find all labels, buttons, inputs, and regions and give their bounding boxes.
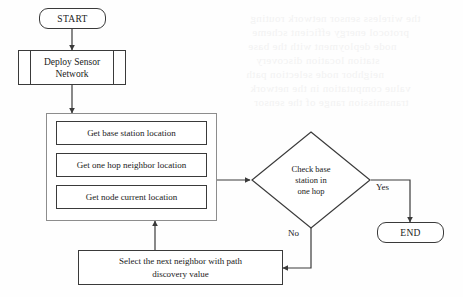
- node-decision-check-base-station[interactable]: Check base station in one hop: [251, 131, 371, 229]
- node-start-label: START: [57, 14, 87, 24]
- decision-label-block: Check base station in one hop: [251, 131, 371, 229]
- node-end-label: END: [400, 228, 420, 238]
- node-end[interactable]: END: [377, 222, 444, 243]
- ghost-text-line-6: value computation in the network: [250, 82, 411, 95]
- flowchart-canvas: the wireless sensor network routing prot…: [0, 0, 463, 297]
- node-get-one-hop-neighbor-location[interactable]: Get one hop neighbor location: [56, 153, 207, 177]
- ghost-text-line-2: protocol energy efficient scheme: [252, 26, 409, 39]
- node-select-label-line2: discovery value: [152, 268, 209, 281]
- node-start[interactable]: START: [39, 8, 106, 29]
- edge-label-no: No: [288, 228, 299, 238]
- node-select-label-line1: Select the next neighbor with path: [119, 255, 242, 268]
- edge-label-yes: Yes: [376, 182, 389, 192]
- ghost-text-line-3: node deployment with the base: [248, 40, 396, 53]
- ghost-text-line-1: the wireless sensor network routing: [250, 12, 420, 25]
- node-deploy-label-line2: Network: [55, 68, 88, 80]
- node-get-base-station-label: Get base station location: [87, 128, 176, 138]
- ghost-text-line-5: neighbor node selection path: [246, 68, 384, 81]
- node-deploy-sensor-network[interactable]: Deploy Sensor Network: [18, 50, 126, 85]
- node-get-node-current-location[interactable]: Get node current location: [56, 185, 207, 209]
- ghost-text-line-4: station location discovery: [256, 54, 379, 67]
- ghost-text-line-7: transmission range of the sensor: [254, 96, 409, 109]
- node-get-base-station-location[interactable]: Get base station location: [56, 121, 207, 145]
- node-get-one-hop-label: Get one hop neighbor location: [77, 160, 186, 170]
- decision-label-line2: station in: [292, 175, 331, 186]
- node-select-next-neighbor[interactable]: Select the next neighbor with path disco…: [78, 250, 283, 285]
- node-get-node-current-label: Get node current location: [86, 192, 178, 202]
- node-deploy-label-line1: Deploy Sensor: [44, 56, 100, 68]
- decision-label-line3: one hop: [292, 186, 331, 197]
- decision-label-line1: Check base: [292, 164, 331, 175]
